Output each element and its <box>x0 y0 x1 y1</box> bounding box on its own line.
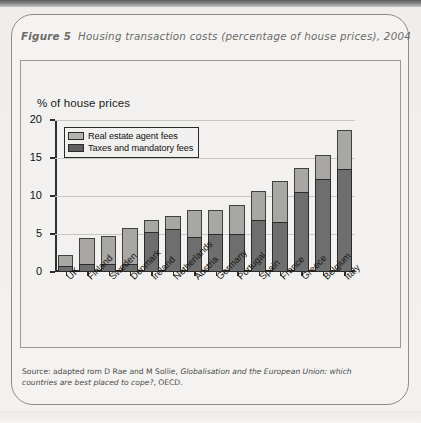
legend-label-taxes: Taxes and mandatory fees <box>88 143 193 153</box>
bar-segment-agent-fees <box>337 130 352 170</box>
scan-edge-bottom <box>0 411 421 423</box>
legend-swatch-agent-fees <box>68 132 84 140</box>
source-prefix: Source: adapted rom D Rae and M Sollie, <box>22 367 180 376</box>
bar-segment-agent-fees <box>315 155 330 179</box>
legend-label-agent-fees: Real estate agent fees <box>88 131 178 141</box>
bar-segment-agent-fees <box>294 168 309 192</box>
bar-segment-agent-fees <box>79 238 94 264</box>
legend-item-agent-fees: Real estate agent fees <box>68 130 193 142</box>
scan-edge-top <box>0 0 421 7</box>
y-axis-title: % of house prices <box>37 97 130 109</box>
chart-legend: Real estate agent fees Taxes and mandato… <box>64 127 199 158</box>
bar-segment-agent-fees <box>251 191 266 221</box>
y-axis-tick-label: 15 <box>30 151 42 163</box>
figure-caption-text: Housing transaction costs (percentage of… <box>78 30 411 42</box>
legend-swatch-taxes <box>68 144 84 152</box>
figure-source: Source: adapted rom D Rae and M Sollie, … <box>22 366 382 388</box>
source-suffix: , OECD. <box>153 378 182 387</box>
y-axis-tick-label: 20 <box>30 113 42 125</box>
x-axis-labels: UKFinlandSwedenDenmarkIrelandNetherlands… <box>55 274 355 334</box>
figure-number: Figure 5 <box>21 30 71 42</box>
bar-segment-agent-fees <box>58 255 73 266</box>
y-axis-tick-label: 0 <box>36 265 42 277</box>
bar-segment-agent-fees <box>208 210 223 234</box>
bar-segment-agent-fees <box>165 216 180 229</box>
bar-segment-agent-fees <box>272 181 287 222</box>
figure-caption: Figure 5Housing transaction costs (perce… <box>21 30 391 42</box>
y-axis-tick-label: 5 <box>36 227 42 239</box>
page-background: Figure 5Housing transaction costs (perce… <box>0 0 421 423</box>
legend-item-taxes: Taxes and mandatory fees <box>68 142 193 154</box>
bar-segment-agent-fees <box>229 205 244 234</box>
y-axis-tick-label: 10 <box>30 189 42 201</box>
bar-segment-agent-fees <box>187 210 202 237</box>
bar-segment-agent-fees <box>144 220 159 232</box>
